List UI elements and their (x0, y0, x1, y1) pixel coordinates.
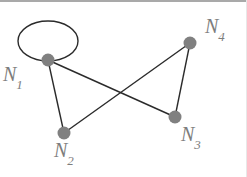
node-label-n2-base: N (54, 139, 67, 161)
node-label-n1: N1 (3, 64, 23, 88)
diagram-canvas: N1 N2 N3 N4 (0, 0, 247, 177)
node-n1[interactable] (42, 54, 55, 67)
edge-group (48, 43, 190, 133)
node-n2[interactable] (58, 127, 71, 140)
node-label-n1-base: N (3, 63, 16, 85)
node-label-n1-subscript: 1 (16, 77, 23, 92)
edge-n1-n3 (48, 60, 175, 117)
node-label-n2: N2 (54, 140, 74, 164)
edge-n3-n4 (175, 43, 190, 117)
node-label-n3: N3 (181, 124, 201, 148)
edge-n1-n2 (48, 60, 64, 133)
node-group (42, 37, 197, 140)
node-label-n2-subscript: 2 (67, 153, 74, 168)
node-label-n4-subscript: 4 (218, 29, 225, 44)
node-label-n3-base: N (181, 123, 194, 145)
node-n4[interactable] (184, 37, 197, 50)
node-label-n3-subscript: 3 (194, 137, 201, 152)
node-label-n4: N4 (205, 16, 225, 40)
node-n3[interactable] (169, 111, 182, 124)
node-label-n4-base: N (205, 15, 218, 37)
